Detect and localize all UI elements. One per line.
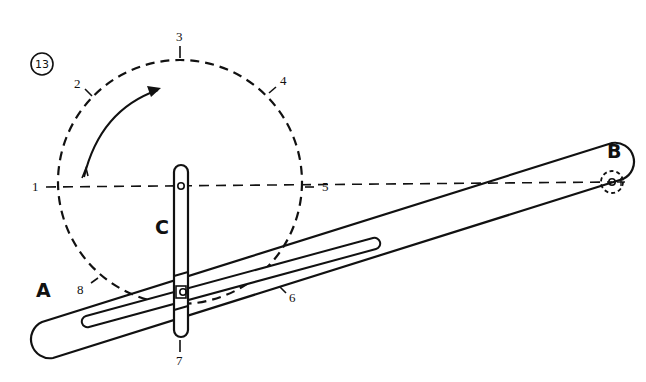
crank-label-c: C xyxy=(155,216,169,238)
figure-number: 13 xyxy=(35,58,49,71)
position-label-1: 1 xyxy=(32,179,39,194)
position-label-5: 5 xyxy=(322,179,329,194)
center-line xyxy=(46,182,612,187)
rotation-arrow xyxy=(82,86,161,178)
position-label-6: 6 xyxy=(289,290,296,305)
pivot-label-b: B xyxy=(607,140,621,162)
position-label-2: 2 xyxy=(74,76,81,91)
rotation-arc xyxy=(84,90,158,177)
position-label-3: 3 xyxy=(176,29,183,44)
position-label-4: 4 xyxy=(280,73,287,88)
arrowhead-icon xyxy=(147,86,161,97)
mechanism-diagram: 13 1 2 3 4 5 6 7 8 xyxy=(0,0,646,382)
crank-bar-c xyxy=(174,165,188,337)
lever-slot xyxy=(82,238,380,327)
position-label-7: 7 xyxy=(176,353,183,368)
position-label-8: 8 xyxy=(77,282,84,297)
slotted-lever-a xyxy=(31,143,634,358)
lever-label-a: A xyxy=(36,279,51,301)
figure-number-badge: 13 xyxy=(31,53,53,75)
